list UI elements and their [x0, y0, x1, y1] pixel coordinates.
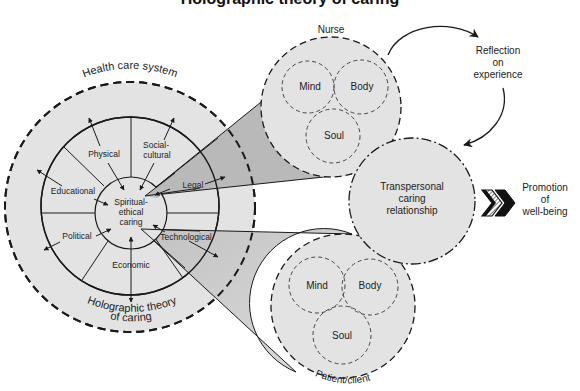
dimension-educational: Educational — [51, 186, 96, 196]
dimension-social-cultural: Social- — [143, 140, 169, 150]
dimension-legal: Legal — [183, 180, 204, 190]
svg-text:caring: caring — [119, 217, 142, 227]
dimension-economic: Economic — [112, 260, 150, 270]
nurse-label: Nurse — [318, 24, 345, 35]
patient-soul-label: Soul — [332, 330, 352, 341]
dimension-political: Political — [62, 231, 91, 241]
svg-text:caring: caring — [398, 193, 425, 204]
double-chevron-icon — [482, 190, 515, 216]
dimension-social-cultural-2: cultural — [143, 150, 171, 160]
svg-text:ethical: ethical — [119, 207, 144, 217]
svg-text:Promotion: Promotion — [522, 182, 568, 193]
of-caring-label: of caring — [110, 310, 153, 324]
health-care-system-label: Health care system — [81, 59, 180, 80]
dimension-technological: Technological — [160, 232, 212, 242]
transpersonal-relationship-group: Transpersonal caring relationship — [349, 138, 475, 264]
reflection-arrow-out — [388, 26, 478, 55]
nurse-body-label: Body — [351, 81, 374, 92]
svg-text:of: of — [541, 194, 550, 205]
svg-text:Reflection: Reflection — [476, 45, 520, 56]
dimension-physical: Physical — [88, 149, 120, 159]
holographic-caring-diagram: Holographic theory of caring — [0, 0, 580, 391]
svg-text:Transpersonal: Transpersonal — [380, 181, 444, 192]
svg-text:on: on — [492, 57, 503, 68]
patient-mind-label: Mind — [306, 280, 328, 291]
svg-text:experience: experience — [474, 69, 523, 80]
nurse-soul-label: Soul — [324, 130, 344, 141]
svg-text:Spiritual-: Spiritual- — [114, 197, 148, 207]
svg-text:relationship: relationship — [386, 205, 438, 216]
reflection-label: Reflection on experience — [474, 45, 523, 80]
patient-body-label: Body — [359, 280, 382, 291]
svg-text:well-being: well-being — [521, 206, 567, 217]
diagram-title-cropped: Holographic theory of caring — [181, 0, 400, 7]
reflection-arrow-in — [464, 88, 504, 145]
nurse-mind-label: Mind — [299, 81, 321, 92]
promotion-label: Promotion of well-being — [521, 182, 567, 217]
